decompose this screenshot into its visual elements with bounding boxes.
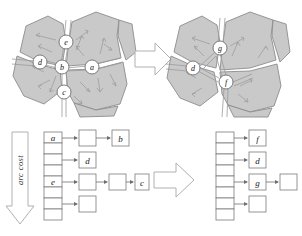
graph-node-c[interactable]: c xyxy=(57,85,71,99)
polygon-group-before xyxy=(13,12,136,117)
polygon-group-after xyxy=(167,12,290,117)
graph-node-label: a xyxy=(90,63,94,72)
chain-row-6 xyxy=(62,196,96,212)
panel-list-before: arc cost a e xyxy=(0,118,150,236)
link-arrowhead xyxy=(107,136,111,140)
chain-row-4: c xyxy=(62,174,149,190)
graph-node-g[interactable]: g xyxy=(213,41,227,55)
chain-node-label: d xyxy=(85,156,90,166)
chain-node-label: d xyxy=(255,156,260,166)
graph-node-e[interactable]: e xyxy=(59,35,73,49)
bucket-cell[interactable] xyxy=(44,143,62,154)
link-arrowhead xyxy=(244,202,248,206)
bucket-cell[interactable] xyxy=(216,176,234,187)
graph-node-label: g xyxy=(218,44,222,53)
chain-node-label: g xyxy=(255,178,260,188)
bucket-column-after xyxy=(216,132,234,220)
bucket-cell[interactable] xyxy=(44,165,62,176)
bucket-cell-label: a xyxy=(51,133,56,143)
link-arrowhead xyxy=(130,180,134,184)
graph-node-label: c xyxy=(62,88,66,97)
panel-list-after: f d g xyxy=(188,118,302,236)
bucket-cell[interactable] xyxy=(216,198,234,209)
face-polygon xyxy=(220,12,276,70)
graph-node-a[interactable]: a xyxy=(85,60,99,74)
link-arrowhead xyxy=(104,180,108,184)
graph-node-label: b xyxy=(60,63,64,72)
chain-row-2: d xyxy=(234,152,266,168)
link-arrowhead xyxy=(74,136,78,140)
bucket-cell[interactable] xyxy=(216,154,234,165)
arc-cost-axis: arc cost xyxy=(6,132,34,224)
graph-node-b[interactable]: b xyxy=(55,60,69,74)
bucket-cell-label: e xyxy=(51,177,55,187)
graph-node-f[interactable]: f xyxy=(219,75,233,89)
bucket-cell[interactable] xyxy=(44,154,62,165)
chain-row-4: g xyxy=(234,174,297,190)
chain-node[interactable] xyxy=(109,174,126,190)
chain-node[interactable] xyxy=(249,196,266,212)
link-arrowhead xyxy=(74,158,78,162)
chain-node[interactable] xyxy=(79,196,96,212)
graph-node-label: e xyxy=(64,38,68,47)
panel-graph-before: e d b a c xyxy=(0,0,150,118)
panel-graph-after: g d f xyxy=(160,0,302,118)
chain-row-0: b xyxy=(62,130,129,146)
bucket-cell[interactable] xyxy=(216,143,234,154)
bucket-column-before xyxy=(44,132,62,220)
chain-node[interactable] xyxy=(79,130,96,146)
bucket-cell[interactable] xyxy=(216,132,234,143)
chain-node-label: c xyxy=(140,178,144,188)
link-arrowhead xyxy=(275,180,279,184)
graph-node-d[interactable]: d xyxy=(186,61,200,75)
chain-row-0: f xyxy=(234,130,266,146)
link-arrowhead xyxy=(244,180,248,184)
figure-root: e d b a c xyxy=(0,0,302,236)
bucket-cell[interactable] xyxy=(44,198,62,209)
bucket-cell[interactable] xyxy=(44,187,62,198)
link-arrowhead xyxy=(74,180,78,184)
chain-row-6 xyxy=(234,196,266,212)
link-arrowhead xyxy=(244,158,248,162)
bucket-cell[interactable] xyxy=(216,165,234,176)
bucket-cell[interactable] xyxy=(44,209,62,220)
chain-node[interactable] xyxy=(79,174,96,190)
arc-cost-label: arc cost xyxy=(15,155,25,185)
chain-row-2: d xyxy=(62,152,96,168)
bucket-cell[interactable] xyxy=(216,187,234,198)
chain-node-label: b xyxy=(118,134,123,144)
link-arrowhead xyxy=(74,202,78,206)
bucket-cell[interactable] xyxy=(216,209,234,220)
face-polygon xyxy=(66,12,121,66)
chain-node[interactable] xyxy=(280,174,297,190)
graph-node-d[interactable]: d xyxy=(33,55,47,69)
link-arrowhead xyxy=(244,136,248,140)
